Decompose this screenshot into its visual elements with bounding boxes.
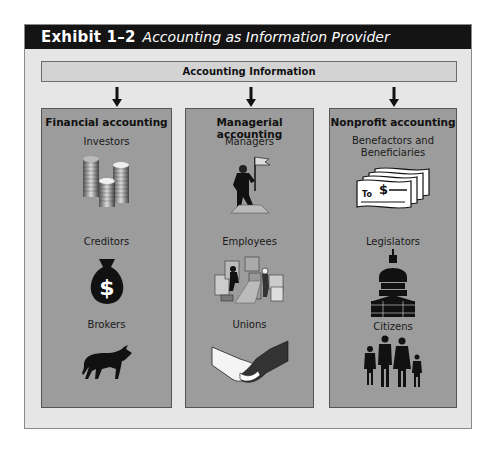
svg-text:$: $	[379, 182, 388, 197]
column-managerial-accounting: Managerial accounting Managers Employees…	[185, 108, 314, 408]
svg-text:$: $	[99, 275, 114, 300]
user-label: Unions	[186, 319, 313, 331]
exhibit-frame: Exhibit 1–2 Accounting as Information Pr…	[24, 24, 472, 429]
column-heading: Financial accounting	[42, 116, 171, 128]
family-icon	[361, 335, 425, 389]
coin-stacks-icon	[79, 153, 135, 209]
user-label: Citizens	[330, 321, 456, 333]
arrow-down-icon	[111, 87, 123, 107]
svg-text:To: To	[362, 190, 372, 199]
exhibit-header: Exhibit 1–2 Accounting as Information Pr…	[25, 25, 471, 49]
user-label: Investors	[42, 136, 171, 148]
manager-flag-icon	[225, 151, 275, 219]
money-bag-icon: $	[83, 255, 131, 307]
exhibit-number: Exhibit 1–2	[41, 28, 136, 46]
column-heading: Nonprofit accounting	[330, 116, 456, 128]
exhibit-title: Accounting as Information Provider	[143, 29, 390, 45]
handshake-icon	[210, 337, 290, 389]
user-label: Brokers	[42, 319, 171, 331]
user-label: Employees	[186, 236, 313, 248]
arrow-down-icon	[388, 87, 400, 107]
user-label: Managers	[186, 136, 313, 148]
arrow-down-icon	[245, 87, 257, 107]
bull-icon	[80, 341, 134, 383]
workers-boxes-icon	[211, 253, 289, 307]
column-financial-accounting: Financial accounting Investors Creditors…	[41, 108, 172, 408]
accounting-information-bar: Accounting Information	[41, 61, 457, 82]
accounting-information-label: Accounting Information	[182, 66, 315, 77]
user-label: Benefactors and Beneficiaries	[330, 135, 456, 159]
checks-icon: To $	[353, 165, 433, 215]
column-nonprofit-accounting: Nonprofit accounting Benefactors and Ben…	[329, 108, 457, 408]
capitol-icon	[369, 249, 417, 319]
user-label: Creditors	[42, 236, 171, 248]
user-label: Legislators	[330, 236, 456, 248]
